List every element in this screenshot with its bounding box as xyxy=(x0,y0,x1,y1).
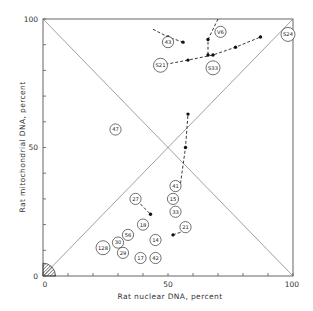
point-label: 42 xyxy=(152,255,159,261)
y-tick-50: 50 xyxy=(28,143,38,152)
data-point-s33: S33 xyxy=(206,61,220,75)
trajectory-V6 xyxy=(206,19,218,57)
point-label: 21 xyxy=(182,224,189,230)
data-point-47: 47 xyxy=(110,124,121,135)
reference-lines xyxy=(43,19,293,276)
y-axis-label: Rat mitochondrial DNA, percent xyxy=(18,81,27,212)
point-label: 56 xyxy=(125,232,132,238)
data-point-17: 17 xyxy=(135,252,146,263)
data-point-15: 15 xyxy=(167,193,178,204)
trajectory-41 xyxy=(181,112,190,183)
data-point-v6: V6 xyxy=(215,26,226,37)
point-label: 41 xyxy=(172,183,179,189)
point-label: 18 xyxy=(140,222,147,228)
point-label: S24 xyxy=(283,31,294,37)
x-tick-100: 100 xyxy=(285,280,300,289)
y-tick-100: 100 xyxy=(24,15,39,24)
point-label: 33 xyxy=(172,209,179,215)
data-point-21: 21 xyxy=(180,222,191,233)
trajectory-21 xyxy=(171,232,180,236)
data-points: 43V6S24S21S33474127153318215614301282917… xyxy=(96,26,295,263)
point-label: 15 xyxy=(170,196,177,202)
data-point-s24: S24 xyxy=(281,27,295,41)
scatter-chart: 43V6S24S21S33474127153318215614301282917… xyxy=(0,0,313,311)
point-label: 29 xyxy=(120,250,127,256)
data-point-14: 14 xyxy=(150,234,161,245)
point-label: 30 xyxy=(115,239,122,245)
data-point-33: 33 xyxy=(170,206,181,217)
data-point-43: 43 xyxy=(162,37,173,48)
x-axis-label: Rat nuclear DNA, percent xyxy=(118,292,223,301)
point-label: 47 xyxy=(112,126,119,132)
trajectories xyxy=(141,19,263,237)
point-label: S33 xyxy=(208,65,218,71)
data-point-30: 30 xyxy=(112,237,123,248)
data-point-29: 29 xyxy=(117,247,128,258)
point-label: 14 xyxy=(152,237,159,243)
data-point-42: 42 xyxy=(150,252,161,263)
data-point-41: 41 xyxy=(170,180,181,191)
data-point-s21: S21 xyxy=(154,58,168,72)
x-tick-50: 50 xyxy=(163,280,173,289)
data-point-128: 128 xyxy=(96,241,110,255)
point-label: 43 xyxy=(165,39,172,45)
x-tick-0: 0 xyxy=(43,280,48,289)
point-label: 27 xyxy=(132,196,139,202)
trajectory-27 xyxy=(141,204,153,216)
point-label: 17 xyxy=(137,255,144,261)
data-point-56: 56 xyxy=(122,229,133,240)
y-tick-0: 0 xyxy=(33,272,38,281)
point-label: V6 xyxy=(217,29,224,35)
point-label: S21 xyxy=(156,62,166,68)
point-label: 128 xyxy=(98,245,108,251)
data-point-27: 27 xyxy=(130,193,141,204)
data-point-18: 18 xyxy=(137,219,148,230)
